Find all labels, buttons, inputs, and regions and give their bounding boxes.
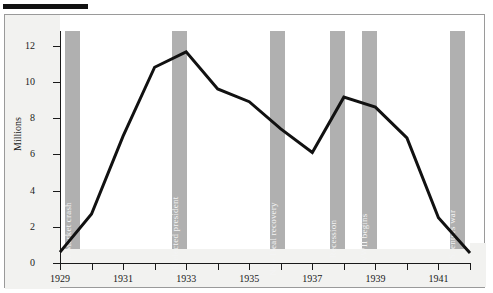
series-line-layer	[5, 15, 486, 289]
chart-frame: Millions Stock Market crashFDR elected p…	[4, 14, 485, 288]
series-line-unemployment	[60, 52, 470, 253]
top-rule-decoration	[3, 4, 88, 9]
figure: Millions Stock Market crashFDR elected p…	[0, 0, 493, 293]
